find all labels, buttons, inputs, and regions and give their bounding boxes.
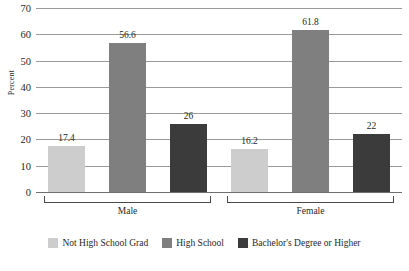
gridline xyxy=(36,192,402,193)
y-axis-title: Percent xyxy=(7,48,16,118)
gridline xyxy=(36,113,402,114)
legend-label: High School xyxy=(176,238,224,248)
bar-value-label: 17.4 xyxy=(58,133,75,143)
group-bracket xyxy=(227,196,395,203)
group-label: Male xyxy=(118,206,138,216)
y-axis-tick-label: 40 xyxy=(21,81,32,92)
bar-value-label: 56.6 xyxy=(119,30,136,40)
gridline xyxy=(36,8,402,9)
chart-legend: Not High School GradHigh SchoolBachelor'… xyxy=(0,238,409,248)
bar xyxy=(170,124,208,192)
bar-value-label: 26 xyxy=(184,111,194,121)
plot-area: 706050403020100 17.456.62616.261.822 xyxy=(36,8,402,192)
chart-page: Percent 706050403020100 17.456.62616.261… xyxy=(0,0,409,271)
legend-swatch-icon xyxy=(238,238,248,248)
bar-value-label: 16.2 xyxy=(241,136,258,146)
y-axis-tick-label: 70 xyxy=(21,3,32,14)
gridline xyxy=(36,34,402,35)
legend-swatch-icon xyxy=(162,238,172,248)
y-axis-tick-label: 50 xyxy=(21,55,32,66)
bar xyxy=(109,43,147,192)
y-axis-tick-label: 20 xyxy=(21,134,32,145)
legend-label: Bachelor's Degree or Higher xyxy=(252,238,361,248)
y-axis-tick-label: 10 xyxy=(21,160,32,171)
y-axis-tick-label: 60 xyxy=(21,29,32,40)
legend-label: Not High School Grad xyxy=(62,238,148,248)
bar xyxy=(48,146,86,192)
group-axis: MaleFemale xyxy=(36,196,402,228)
gridline xyxy=(36,61,402,62)
legend-item[interactable]: Bachelor's Degree or Higher xyxy=(238,238,361,248)
group-bracket xyxy=(44,196,212,203)
bar-value-label: 22 xyxy=(367,121,377,131)
bar xyxy=(292,30,330,192)
group-label: Female xyxy=(297,206,325,216)
legend-item[interactable]: High School xyxy=(162,238,224,248)
bar xyxy=(353,134,391,192)
bar xyxy=(231,149,269,192)
y-axis-tick-label: 30 xyxy=(21,108,32,119)
gridline xyxy=(36,166,402,167)
gridline xyxy=(36,87,402,88)
legend-swatch-icon xyxy=(48,238,58,248)
legend-item[interactable]: Not High School Grad xyxy=(48,238,148,248)
y-axis-tick-label: 0 xyxy=(26,187,31,198)
gridline xyxy=(36,139,402,140)
bar-value-label: 61.8 xyxy=(302,17,319,27)
